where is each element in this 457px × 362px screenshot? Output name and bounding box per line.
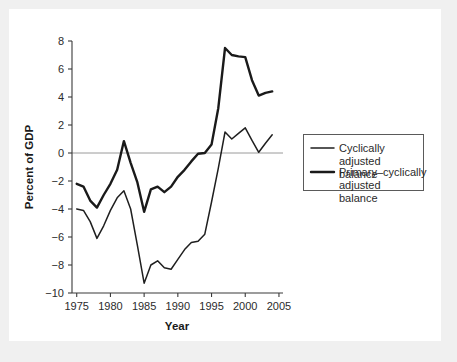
y-tick-label: 0 (58, 147, 64, 159)
y-tick-label: 6 (58, 63, 64, 75)
x-tick-label: 2005 (267, 300, 291, 312)
series-cyclically-adjusted-balance (77, 128, 272, 283)
y-tick-label: −4 (51, 203, 64, 215)
x-tick-label: 1995 (199, 300, 223, 312)
y-tick-label: −2 (51, 175, 64, 187)
y-tick-label: −8 (51, 259, 64, 271)
x-tick-label: 2000 (233, 300, 257, 312)
figure-card: 86420−2−4−6−8−10 19751980198519901995200… (9, 9, 441, 341)
y-tick-label: 4 (58, 91, 64, 103)
x-tick-label: 1975 (64, 300, 88, 312)
y-axis: 86420−2−4−6−8−10 (45, 35, 72, 299)
y-tick-label: −6 (51, 231, 64, 243)
y-tick-label: 2 (58, 119, 64, 131)
y-tick-label: 8 (58, 35, 64, 47)
line-chart: 86420−2−4−6−8−10 19751980198519901995200… (9, 9, 441, 341)
x-axis-title: Year (165, 320, 190, 332)
x-tick-label: 1985 (132, 300, 156, 312)
plot-series (77, 48, 272, 283)
legend: Cyclicallyadjustedbalance Primary–cyclic… (304, 135, 427, 204)
x-axis: 1975198019851990199520002005 (64, 293, 291, 312)
y-axis-title: Percent of GDP (23, 124, 35, 209)
x-tick-label: 1990 (166, 300, 190, 312)
figure-root: 86420−2−4−6−8−10 19751980198519901995200… (0, 0, 457, 362)
x-tick-label: 1980 (98, 300, 122, 312)
y-tick-label: −10 (45, 287, 64, 299)
